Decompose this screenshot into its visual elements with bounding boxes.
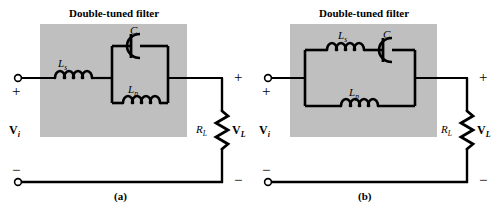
label-lp-a: Lp [128, 84, 138, 98]
label-c-b: C [383, 29, 390, 40]
input-plus-b: + [262, 84, 270, 99]
label-vi-b: Vi [259, 124, 270, 139]
filter-title-a: Double-tuned filter [69, 8, 159, 19]
input-minus-b: − [262, 163, 270, 178]
label-ls-b: Ls [338, 30, 347, 44]
output-minus-a: − [234, 173, 242, 188]
input-terminal-positive-b [265, 75, 272, 82]
label-lp-b: Lp [349, 87, 359, 101]
panel-a [15, 24, 228, 185]
caption-b: (b) [358, 191, 371, 202]
panel-b [265, 24, 473, 185]
resistor-rl-b [461, 111, 473, 149]
label-vi-a: Vi [9, 124, 20, 139]
caption-a: (a) [114, 191, 127, 202]
output-minus-b: − [479, 173, 487, 188]
label-rl-b: RL [441, 124, 452, 138]
filter-title-b: Double-tuned filter [319, 8, 409, 19]
label-vl-b: VL [477, 124, 491, 139]
resistor-rl-a [216, 111, 228, 149]
label-rl-a: RL [196, 124, 207, 138]
output-plus-a: + [234, 70, 242, 85]
input-terminal-positive-a [15, 75, 22, 82]
circuit-schematic [0, 0, 502, 216]
input-plus-a: + [12, 84, 20, 99]
input-terminal-negative-a [15, 179, 22, 186]
filter-box-a [40, 24, 187, 137]
input-terminal-negative-b [265, 179, 272, 186]
output-plus-b: + [479, 70, 487, 85]
label-vl-a: VL [232, 124, 246, 139]
label-c-a: C [130, 25, 137, 36]
label-ls-a: Ls [58, 58, 67, 72]
figure-canvas: Double-tuned filter Ls C Lp + − Vi RL VL… [0, 0, 502, 216]
input-minus-a: − [12, 163, 20, 178]
